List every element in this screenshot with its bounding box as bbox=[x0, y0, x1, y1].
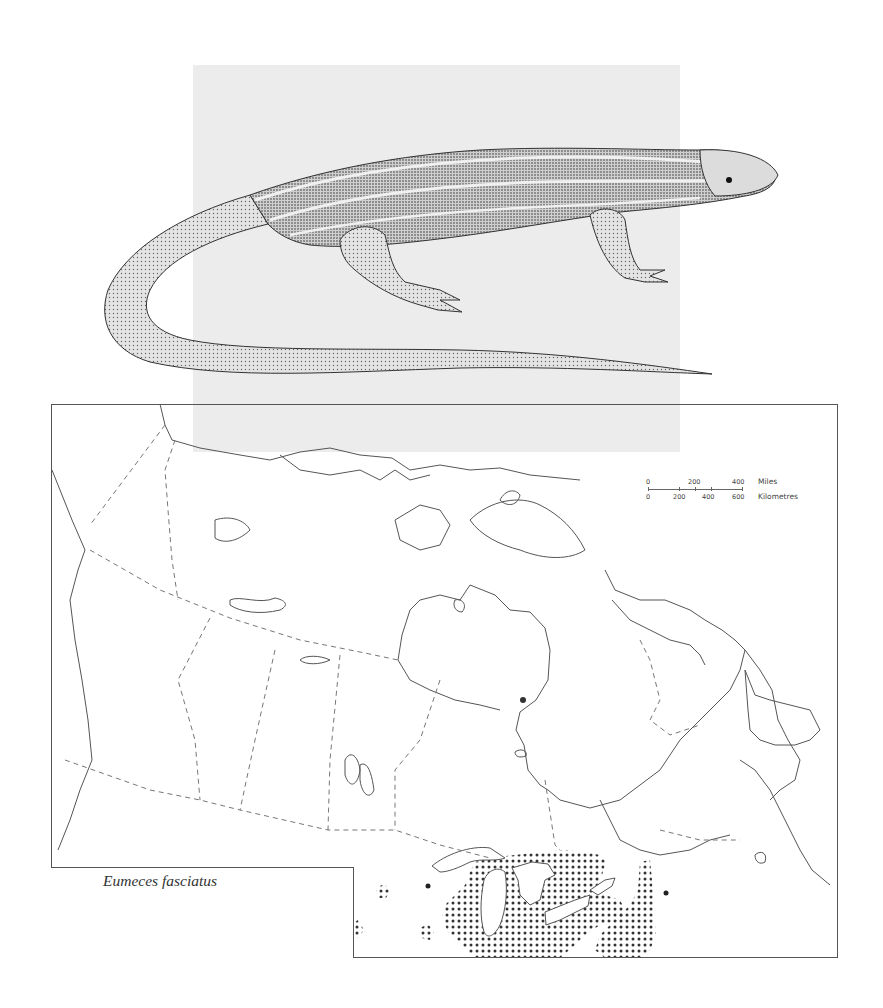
scale-km-tick-200: 200 bbox=[673, 493, 685, 501]
species-label-box: Eumeces fasciatus bbox=[51, 867, 354, 958]
scale-tick bbox=[679, 487, 680, 491]
scale-tick bbox=[695, 487, 696, 491]
scale-km-tick-600: 600 bbox=[732, 493, 744, 501]
scale-km-tick-400: 400 bbox=[702, 493, 714, 501]
scale-tick bbox=[742, 487, 743, 491]
scale-bar: 0 200 400 Miles 0 200 400 600 Kilometres bbox=[646, 478, 806, 508]
scale-miles-tick-200: 200 bbox=[688, 478, 700, 486]
scale-tick bbox=[711, 487, 712, 491]
scale-km-tick-0: 0 bbox=[646, 493, 650, 501]
scale-tick bbox=[648, 487, 649, 491]
scale-miles-tick-0: 0 bbox=[646, 478, 650, 486]
scale-miles-label: Miles bbox=[758, 477, 777, 486]
scale-km-label: Kilometres bbox=[758, 492, 798, 501]
scale-miles-tick-400: 400 bbox=[732, 478, 744, 486]
species-name: Eumeces fasciatus bbox=[103, 872, 217, 890]
